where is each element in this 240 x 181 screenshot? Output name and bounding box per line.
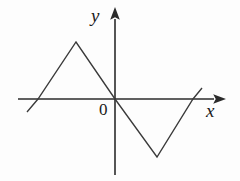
origin-label: 0 xyxy=(99,101,108,118)
coordinate-plane-svg xyxy=(0,0,240,181)
x-axis-label: x xyxy=(206,101,214,120)
graph-figure: y x 0 xyxy=(0,0,240,181)
y-axis-label: y xyxy=(91,6,99,25)
